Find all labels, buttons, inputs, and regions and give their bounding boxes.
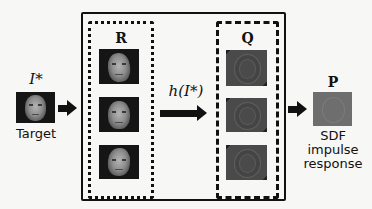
r-face-image-3 bbox=[99, 145, 139, 179]
q-filter-image-3 bbox=[226, 145, 267, 180]
q-set-label: Q bbox=[216, 30, 279, 46]
output-caption-line-1: SDF bbox=[303, 129, 363, 143]
target-caption: Target bbox=[6, 127, 66, 141]
q-filter-image-1 bbox=[226, 50, 267, 86]
output-label: P bbox=[313, 74, 353, 90]
q-filter-image-2 bbox=[226, 98, 267, 132]
operation-label: h(I*) bbox=[158, 82, 214, 100]
r-set-label: R bbox=[88, 30, 154, 46]
r-face-image-2 bbox=[99, 97, 139, 132]
sdf-impulse-response-image bbox=[313, 92, 352, 126]
target-face-image bbox=[16, 92, 55, 123]
r-face-image-1 bbox=[99, 49, 139, 84]
output-caption-line-2: impulse bbox=[303, 143, 363, 157]
output-caption-line-3: response bbox=[303, 157, 363, 171]
target-symbol: I* bbox=[16, 70, 56, 88]
